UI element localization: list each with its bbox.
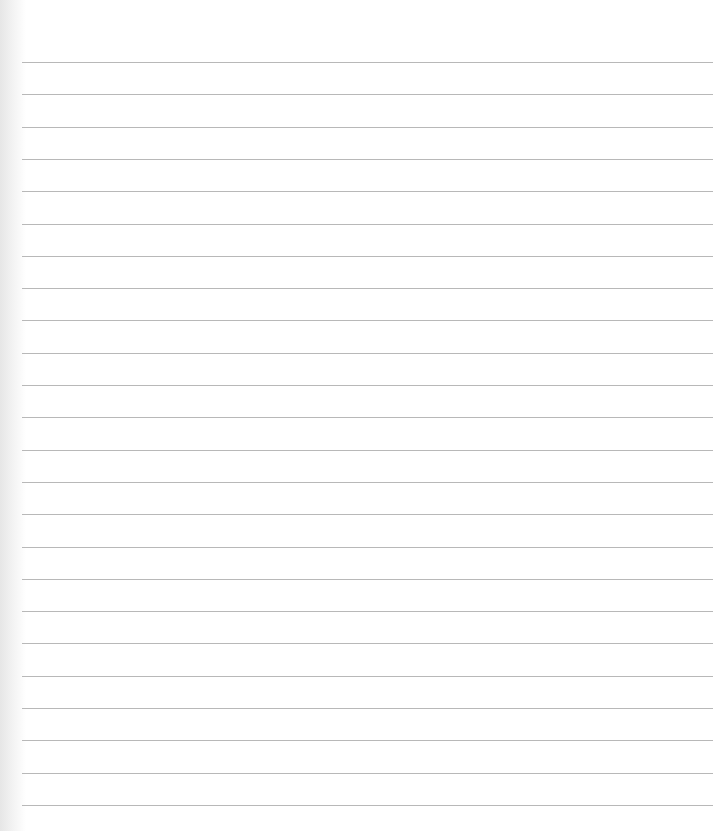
ruled-line xyxy=(22,708,713,709)
ruled-line xyxy=(22,579,713,580)
ruled-line xyxy=(22,676,713,677)
ruled-line xyxy=(22,288,713,289)
ruled-line xyxy=(22,191,713,192)
ruled-line xyxy=(22,62,713,63)
ruled-line xyxy=(22,94,713,95)
page-edge-shadow xyxy=(0,0,26,831)
ruled-line xyxy=(22,740,713,741)
ruled-line xyxy=(22,805,713,806)
ruled-line xyxy=(22,385,713,386)
ruled-line xyxy=(22,482,713,483)
ruled-line xyxy=(22,514,713,515)
ruled-line xyxy=(22,773,713,774)
ruled-line xyxy=(22,224,713,225)
ruled-line xyxy=(22,159,713,160)
ruled-line xyxy=(22,417,713,418)
ruled-line xyxy=(22,611,713,612)
ruled-line xyxy=(22,547,713,548)
ruled-line xyxy=(22,353,713,354)
ruled-line xyxy=(22,450,713,451)
ruled-line xyxy=(22,320,713,321)
ruled-line xyxy=(22,256,713,257)
ruled-line xyxy=(22,643,713,644)
ruled-line xyxy=(22,127,713,128)
